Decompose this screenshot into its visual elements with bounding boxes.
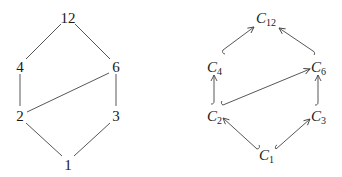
arrow-c4-c12 — [223, 27, 254, 54]
arrow-c1-c3 — [275, 119, 310, 149]
node-3: 3 — [112, 108, 120, 124]
inclusion-diagram: C12 C4 C6 C2 C3 C1 — [207, 10, 326, 165]
node-6: 6 — [112, 59, 120, 75]
node-c1: C1 — [259, 147, 274, 165]
node-c4: C4 — [207, 59, 222, 77]
node-4: 4 — [16, 59, 24, 75]
node-c6: C6 — [311, 59, 326, 77]
edge-12-4 — [26, 24, 61, 59]
edge-2-1 — [26, 123, 62, 156]
edge-6-2 — [27, 73, 109, 112]
node-2: 2 — [16, 108, 24, 124]
arrow-c2-c4 — [211, 75, 214, 104]
arrow-c2-c6 — [221, 69, 310, 105]
node-c12: C12 — [256, 10, 276, 28]
node-c2: C2 — [207, 108, 222, 126]
arrow-c3-c6 — [315, 75, 318, 105]
diagram-canvas: 12 4 6 2 3 1 C12 C4 C6 C2 C3 C1 — [0, 0, 342, 177]
hasse-diagram: 12 4 6 2 3 1 — [16, 10, 120, 173]
arrow-c1-c2 — [223, 118, 260, 149]
edge-3-1 — [74, 123, 110, 156]
node-12: 12 — [61, 10, 76, 26]
edge-12-6 — [75, 24, 110, 59]
node-c3: C3 — [311, 108, 326, 126]
arrow-c6-c12 — [279, 28, 315, 55]
node-1: 1 — [64, 157, 72, 173]
